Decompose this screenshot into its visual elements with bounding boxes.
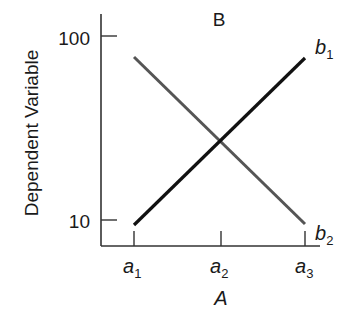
interaction-chart: 100 10 a1 a2 a3 A Dependent Variable B b… — [0, 0, 355, 316]
ytick-100-label: 100 — [58, 28, 90, 49]
x-axis-title: A — [213, 287, 227, 309]
series-b2-label: b2 — [315, 222, 333, 248]
xtick-a3-label: a3 — [295, 255, 313, 281]
xtick-a1-label: a1 — [123, 255, 141, 281]
series-b1-label: b1 — [315, 36, 333, 62]
y-axis-title: Dependent Variable — [21, 50, 42, 217]
xtick-a2-label: a2 — [210, 255, 228, 281]
ytick-10-label: 10 — [69, 211, 90, 232]
chart-title: B — [213, 9, 226, 30]
